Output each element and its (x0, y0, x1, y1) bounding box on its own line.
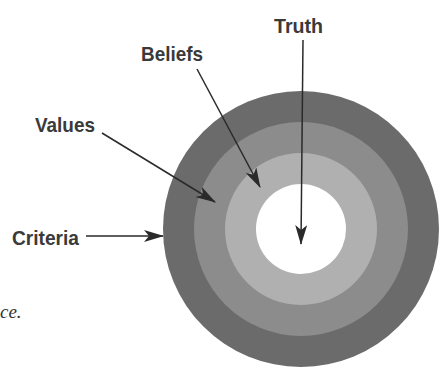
label-truth: Truth (274, 14, 323, 37)
label-criteria: Criteria (12, 226, 79, 249)
concentric-diagram: Truth Beliefs Values Criteria ce. (0, 0, 446, 371)
label-values: Values (35, 113, 95, 136)
label-beliefs: Beliefs (141, 42, 203, 65)
body-text-fragment: ce. (0, 301, 22, 322)
